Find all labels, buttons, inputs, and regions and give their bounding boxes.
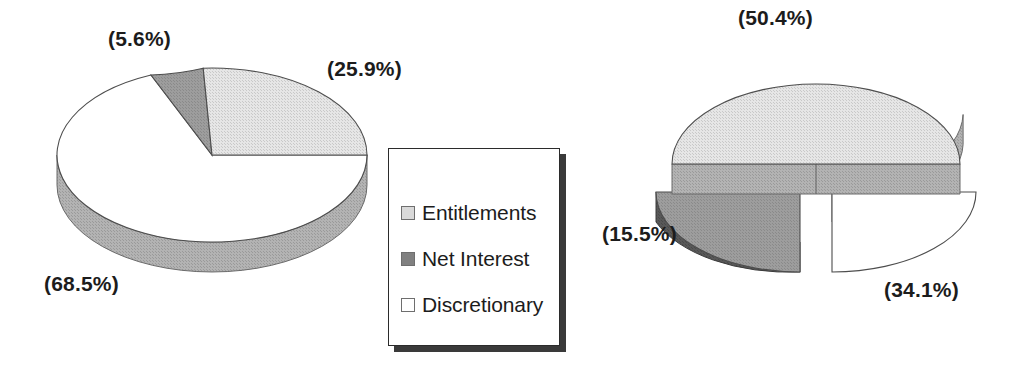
right-slice-net-interest-group [656,192,800,272]
left-label-net-interest: (5.6%) [108,27,171,51]
legend-item-net-interest[interactable]: Net Interest [401,239,559,279]
legend-swatch-entitlements-icon [401,206,415,220]
legend-label-net-interest: Net Interest [422,247,529,271]
legend-box: Entitlements Net Interest Discretionary [388,148,560,346]
legend-label-entitlements: Entitlements [422,201,536,225]
right-label-entitlements: (50.4%) [738,6,813,30]
right-slice-entitlements[interactable] [672,84,960,164]
right-slice-entitlements-group [672,84,960,194]
right-pie-group [656,84,976,272]
right-label-discretionary: (34.1%) [884,278,959,302]
left-pie-group [57,68,367,272]
legend-swatch-net-interest-icon [401,252,415,266]
pie-chart-figure: (5.6%) (25.9%) (68.5%) (50.4%) (15.5%) (… [0,0,1021,370]
right-slice-discretionary[interactable] [832,192,976,272]
left-slice-entitlements[interactable] [203,68,367,155]
legend-swatch-discretionary-icon [401,298,415,312]
left-label-discretionary: (68.5%) [44,272,119,296]
legend-label-discretionary: Discretionary [422,293,543,317]
right-slice-net-interest[interactable] [656,192,800,272]
legend-item-discretionary[interactable]: Discretionary [401,285,559,325]
legend-item-entitlements[interactable]: Entitlements [401,193,559,233]
left-label-entitlements: (25.9%) [327,57,402,81]
right-label-net-interest: (15.5%) [602,222,677,246]
legend-item-list: Entitlements Net Interest Discretionary [389,149,559,345]
